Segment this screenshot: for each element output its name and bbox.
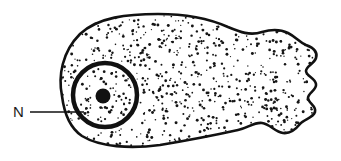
stipple-dot [282,52,285,55]
stipple-dot [184,105,186,107]
stipple-dot [215,117,217,119]
stipple-dot [292,95,294,97]
stipple-dot [129,54,131,56]
stipple-dot [280,55,282,57]
stipple-dot [294,56,296,58]
stipple-dot [99,106,102,109]
stipple-dot [140,102,142,104]
stipple-dot [159,86,161,88]
stipple-dot [94,60,95,61]
stipple-dot [100,132,102,134]
stipple-dot [137,23,139,25]
stipple-dot [304,81,306,83]
stipple-dot [258,97,260,99]
stipple-dot [298,72,300,74]
stipple-dot [254,86,256,88]
stipple-dot [124,56,126,58]
stipple-dot [225,48,228,51]
stipple-dot [115,71,117,73]
stipple-dot [119,134,121,136]
stipple-dot [89,107,91,109]
stipple-dot [218,96,220,98]
stipple-dot [206,92,209,95]
stipple-dot [170,78,172,80]
stipple-dot [291,118,292,119]
stipple-dot [298,99,300,101]
stipple-dot [287,81,288,82]
stipple-dot [304,45,306,47]
stipple-dot [189,55,191,57]
stipple-dot [141,122,143,124]
stipple-dot [138,56,140,58]
stipple-dot [174,29,176,31]
stipple-dot [186,117,189,120]
stipple-dot [276,76,279,79]
stipple-dot [286,109,288,111]
stipple-dot [119,33,120,34]
stipple-dot [283,121,286,124]
stipple-dot [207,115,210,118]
stipple-dot [98,49,100,51]
stipple-dot [111,31,113,33]
stipple-dot [136,73,137,74]
stipple-dot [161,109,163,111]
stipple-dot [136,31,138,33]
stipple-dot [130,86,132,88]
stipple-dot [222,106,225,109]
stipple-dot [155,19,157,21]
stipple-dot [122,92,125,95]
stipple-dot [200,40,202,42]
stipple-dot [283,49,285,51]
stipple-dot [122,75,125,78]
stipple-dot [254,90,256,92]
nucleolus [96,89,111,104]
stipple-dot [288,43,291,46]
stipple-dot [156,96,159,99]
stipple-dot [151,111,154,114]
stipple-dot [218,127,220,129]
nucleus-label: N [13,103,24,120]
stipple-dot [244,88,247,91]
stipple-dot [112,107,114,109]
stipple-dot [272,39,275,42]
stipple-dot [120,128,122,130]
stipple-dot [114,26,116,28]
stipple-dot [252,101,254,103]
stipple-dot [165,71,168,74]
stipple-dot [260,73,262,75]
stipple-dot [251,52,254,55]
stipple-dot [143,58,146,61]
stipple-dot [166,92,168,94]
stipple-dot [213,62,216,65]
stipple-dot [179,101,181,103]
stipple-dot [164,122,167,125]
stipple-dot [143,113,145,115]
stipple-dot [128,49,129,50]
stipple-dot [73,78,74,79]
stipple-dot [117,117,119,119]
stipple-dot [161,42,164,45]
stipple-dot [223,75,225,77]
stipple-dot [218,38,220,40]
stipple-dot [247,73,249,75]
stipple-dot [130,45,133,48]
stipple-dot [87,111,89,113]
stipple-dot [140,59,143,62]
stipple-dot [149,140,151,142]
stipple-dot [70,112,72,114]
stipple-dot [215,37,217,39]
stipple-dot [230,56,231,57]
stipple-dot [306,80,308,82]
stipple-dot [264,73,265,74]
stipple-dot [192,107,194,109]
stipple-dot [116,144,119,147]
stipple-dot [196,45,198,47]
stipple-dot [144,47,147,50]
stipple-dot [253,74,255,76]
stipple-dot [124,80,126,82]
stipple-dot [297,63,300,66]
stipple-dot [209,99,212,102]
stipple-dot [181,61,183,63]
stipple-dot [119,130,120,131]
stipple-dot [176,84,178,86]
